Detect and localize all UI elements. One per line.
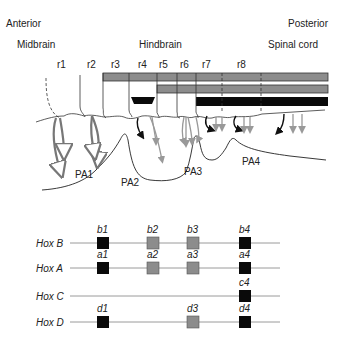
hox-diagram: Anterior Posterior Midbrain Hindbrain Sp… <box>0 0 347 343</box>
hox-label: Hox B <box>36 238 64 249</box>
rhombomere-label: r8 <box>237 59 246 70</box>
gene-label: b4 <box>239 224 251 235</box>
gene-label: b3 <box>187 224 199 235</box>
hox-row-b: Hox B b1 b2 b3 b4 <box>36 224 280 249</box>
expression-bar-1 <box>103 73 328 81</box>
gene-box-black <box>239 290 251 302</box>
gene-box-gray <box>187 262 199 274</box>
rhombomere-label: r4 <box>138 59 147 70</box>
gene-label: b1 <box>97 224 108 235</box>
hindbrain-label: Hindbrain <box>139 39 182 50</box>
arch-label-pa1: PA1 <box>75 169 94 180</box>
midbrain-label: Midbrain <box>17 39 55 50</box>
gene-box-gray <box>187 237 199 249</box>
hox-label: Hox D <box>36 317 64 328</box>
gene-box-gray <box>147 262 159 274</box>
gene-label: d4 <box>239 303 251 314</box>
gene-box-black <box>239 316 251 328</box>
gene-box-black <box>97 262 109 274</box>
gene-label: a2 <box>147 249 159 260</box>
hox-label: Hox C <box>36 291 65 302</box>
neural-crest-arrows-pa1 <box>54 116 99 170</box>
rhombomere-label: r2 <box>87 59 96 70</box>
spinal-cord-label: Spinal cord <box>268 39 318 50</box>
rhombomere-label: r1 <box>57 59 66 70</box>
neural-tube-outline <box>36 110 325 122</box>
gene-label: d3 <box>187 303 199 314</box>
arch-label-pa4: PA4 <box>242 156 261 167</box>
gene-label: d1 <box>97 303 108 314</box>
rhombomere-label: r3 <box>111 59 120 70</box>
hox-row-c: Hox C c4 <box>36 277 280 302</box>
gene-label: a4 <box>239 249 251 260</box>
hox-label: Hox A <box>36 263 63 274</box>
hox-row-a: Hox A a1 a2 a3 a4 <box>36 249 280 274</box>
gene-box-black <box>97 316 109 328</box>
r4-expression-segment <box>131 97 155 104</box>
gene-label: c4 <box>239 277 250 288</box>
gene-box-gray <box>147 237 159 249</box>
posterior-label: Posterior <box>288 18 329 29</box>
hox-row-d: Hox D d1 d3 d4 <box>36 303 280 328</box>
expression-bar-2 <box>157 85 328 93</box>
gene-label: a1 <box>97 249 108 260</box>
gray-arrows <box>150 114 302 160</box>
rhombomere-label: r6 <box>180 59 189 70</box>
gene-box-gray <box>187 316 199 328</box>
gene-label: a3 <box>187 249 199 260</box>
gene-label: b2 <box>147 224 159 235</box>
gene-box-black <box>239 237 251 249</box>
rhombomere-labels: r1 r2 r3 r4 r5 r6 r7 r8 <box>57 59 246 70</box>
pharyngeal-arch-outline <box>42 134 326 190</box>
anterior-label: Anterior <box>6 18 42 29</box>
gene-box-black <box>97 237 109 249</box>
rhombomere-label: r7 <box>202 59 211 70</box>
gene-box-black <box>239 262 251 274</box>
rhombomere-label: r5 <box>159 59 168 70</box>
arch-label-pa2: PA2 <box>121 177 140 188</box>
arch-label-pa3: PA3 <box>184 166 203 177</box>
expression-bar-3 <box>196 97 328 106</box>
